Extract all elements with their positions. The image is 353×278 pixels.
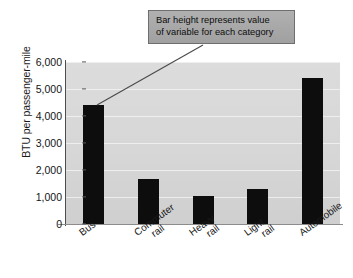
y-tick-mark	[82, 88, 86, 89]
y-tick-mark	[82, 61, 86, 62]
annotation-callout: Bar height represents value of variable …	[148, 10, 295, 44]
y-tick-mark	[82, 196, 86, 197]
gridline	[66, 62, 340, 63]
y-tick-label: 6,000	[36, 56, 62, 68]
bar	[83, 105, 104, 224]
y-tick-label: 3,000	[36, 137, 62, 149]
y-tick-label: 1,000	[36, 191, 62, 203]
y-tick-label: 4,000	[36, 110, 62, 122]
annotation-line-2: of variable for each category	[156, 27, 288, 39]
y-axis-ticks: 01,0002,0003,0004,0005,0006,000	[22, 0, 62, 278]
gridline	[66, 116, 340, 117]
y-tick-label: 5,000	[36, 83, 62, 95]
y-tick-mark	[82, 169, 86, 170]
y-tick-label: 0	[56, 218, 62, 230]
gridline	[66, 170, 340, 171]
y-tick-mark	[82, 115, 86, 116]
y-axis-line	[65, 60, 66, 226]
gridline	[66, 143, 340, 144]
annotation-line-1: Bar height represents value	[156, 15, 288, 27]
y-tick-label: 2,000	[36, 164, 62, 176]
gridline	[66, 89, 340, 90]
plot-area	[66, 62, 340, 224]
bar	[302, 78, 323, 224]
bar-chart-figure: BTU per passenger-mile 01,0002,0003,0004…	[0, 0, 353, 278]
y-tick-mark	[82, 142, 86, 143]
